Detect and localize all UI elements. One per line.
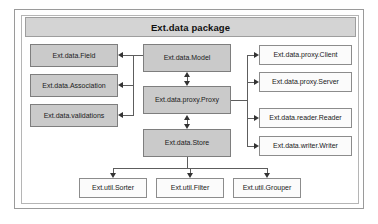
arrowhead-down-store-icon [184, 124, 190, 129]
node-label: Ext.util.Filter [171, 184, 210, 192]
node-label: Ext.data.proxy.Proxy [155, 96, 219, 104]
arrowhead-right-writer-icon [254, 143, 259, 149]
arrowhead-up-proxy-icon [184, 115, 190, 120]
node-ext-data-store[interactable]: Ext.data.Store [143, 129, 231, 157]
arrowhead-right-client-icon [254, 52, 259, 58]
node-ext-data-proxy-client[interactable]: Ext.data.proxy.Client [259, 45, 352, 65]
node-label: Ext.data.validations [44, 112, 105, 120]
connector-proxy-to-right-bus [231, 100, 248, 101]
node-label: Ext.data.writer.Writer [273, 142, 338, 150]
connector-store-down [187, 157, 188, 168]
node-label: Ext.data.proxy.Client [273, 51, 337, 59]
arrowhead-right-reader-icon [254, 115, 259, 121]
node-ext-data-reader-reader[interactable]: Ext.data.reader.Reader [259, 108, 352, 128]
connector-to-writer [247, 146, 254, 147]
package-title: Ext.data package [151, 22, 230, 33]
arrowhead-right-server-icon [254, 79, 259, 85]
arrowhead-down-sorter-icon [110, 173, 116, 178]
node-ext-util-grouper[interactable]: Ext.util.Grouper [233, 178, 301, 198]
connector-to-field [123, 55, 134, 56]
node-ext-data-writer-writer[interactable]: Ext.data.writer.Writer [259, 136, 352, 156]
diagram-canvas: Ext.data package Ext.data.Field Ext.data… [0, 0, 378, 224]
node-ext-data-proxy-server[interactable]: Ext.data.proxy.Server [259, 72, 352, 92]
package-title-bar: Ext.data package [25, 17, 356, 37]
node-ext-data-field[interactable]: Ext.data.Field [30, 44, 118, 67]
arrowhead-up-model-icon [184, 72, 190, 77]
node-label: Ext.data.Field [53, 52, 96, 60]
node-label: Ext.data.reader.Reader [269, 114, 341, 122]
connector-to-proxy-client [247, 55, 254, 56]
connector-to-validations [123, 115, 134, 116]
node-label: Ext.data.Association [42, 82, 105, 90]
connector-to-proxy-server [247, 82, 254, 83]
connector-to-association [123, 85, 134, 86]
connector-to-reader [247, 118, 254, 119]
node-ext-data-validations[interactable]: Ext.data.validations [30, 104, 118, 127]
node-label: Ext.util.Sorter [92, 184, 134, 192]
node-label: Ext.data.proxy.Server [272, 78, 339, 86]
node-ext-data-model[interactable]: Ext.data.Model [143, 44, 231, 72]
connector-right-vertical-bus [247, 55, 248, 146]
arrowhead-down-grouper-icon [264, 173, 270, 178]
node-label: Ext.util.Grouper [243, 184, 292, 192]
node-label: Ext.data.Store [165, 139, 209, 147]
node-ext-data-proxy-proxy[interactable]: Ext.data.proxy.Proxy [143, 86, 231, 114]
arrowhead-left-validations-icon [118, 112, 123, 118]
arrowhead-left-field-icon [118, 52, 123, 58]
node-ext-util-filter[interactable]: Ext.util.Filter [156, 178, 224, 198]
node-ext-util-sorter[interactable]: Ext.util.Sorter [79, 178, 147, 198]
node-label: Ext.data.Model [164, 54, 211, 62]
arrowhead-left-association-icon [118, 82, 123, 88]
arrowhead-down-filter-icon [187, 173, 193, 178]
arrowhead-down-proxy-icon [184, 81, 190, 86]
node-ext-data-association[interactable]: Ext.data.Association [30, 74, 118, 97]
